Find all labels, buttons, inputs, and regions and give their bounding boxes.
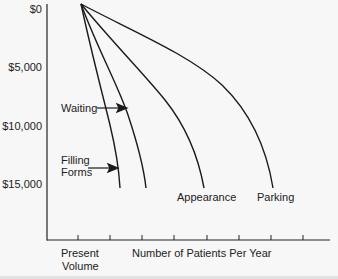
waiting-arrowhead-icon xyxy=(117,104,127,112)
x-label-volume: Volume xyxy=(62,260,99,272)
curve-appearance xyxy=(81,4,204,188)
y-tick-label-5000: $5,000 xyxy=(0,61,42,73)
label-filling: Filling xyxy=(61,154,90,166)
label-forms: Forms xyxy=(61,166,92,178)
label-parking: Parking xyxy=(257,191,294,203)
x-ticks xyxy=(78,235,303,240)
filling-forms-arrowhead-icon xyxy=(108,164,118,172)
y-tick-label-0: $0 xyxy=(0,3,42,15)
y-tick-label-15000: $15,000 xyxy=(0,178,42,190)
label-waiting: Waiting xyxy=(61,102,97,114)
curve-parking xyxy=(81,4,273,188)
label-appearance: Appearance xyxy=(177,191,236,203)
y-tick-label-10000: $10,000 xyxy=(0,120,42,132)
chart: $0 $5,000 $10,000 $15,000 Waiting Fillin… xyxy=(0,0,338,279)
x-axis-title: Number of Patients Per Year xyxy=(132,247,271,259)
x-label-present: Present xyxy=(61,247,99,259)
chart-plot xyxy=(0,0,338,279)
